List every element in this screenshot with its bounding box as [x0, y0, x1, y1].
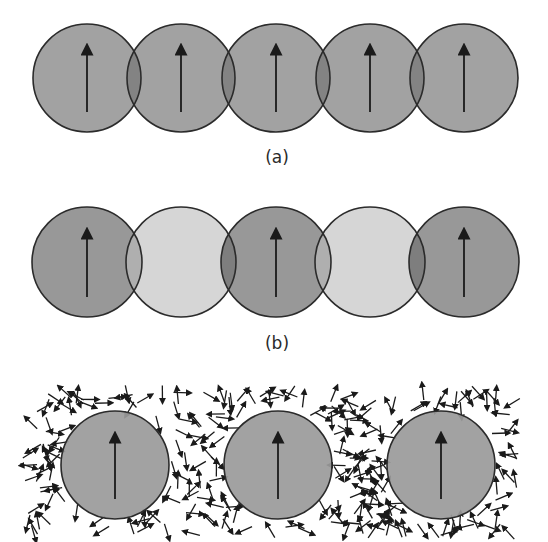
small-spin-arrow-icon — [55, 489, 65, 502]
small-spin-arrow-icon — [108, 397, 124, 399]
small-spin-arrow-icon — [46, 494, 53, 509]
small-spin-arrow-icon — [492, 433, 508, 434]
small-spin-arrow-icon — [504, 527, 515, 539]
small-spin-arrow-icon — [380, 425, 381, 441]
small-spin-arrow-icon — [28, 505, 42, 513]
small-spin-arrow-icon — [386, 520, 390, 536]
small-spin-arrow-icon — [363, 429, 378, 435]
small-spin-arrow-icon — [129, 519, 134, 534]
small-spin-arrow-icon — [354, 501, 364, 514]
panel-b-antiferromagnetic — [32, 207, 519, 317]
small-spin-arrow-icon — [222, 498, 231, 511]
small-spin-arrow-icon — [184, 491, 198, 498]
small-spin-arrow-icon — [411, 403, 425, 411]
small-spin-arrow-icon — [350, 420, 366, 421]
small-spin-arrow-icon — [192, 461, 206, 469]
small-spin-arrow-icon — [503, 471, 514, 483]
small-spin-arrow-icon — [186, 513, 202, 514]
small-spin-arrow-icon — [367, 469, 374, 483]
small-spin-arrow-icon — [247, 390, 255, 404]
small-spin-arrow-icon — [331, 387, 337, 402]
small-spin-arrow-icon — [137, 395, 151, 403]
small-spin-arrow-icon — [381, 478, 389, 492]
small-spin-arrow-icon — [203, 447, 214, 459]
small-spin-arrow-icon — [37, 467, 51, 474]
small-spin-arrow-icon — [315, 412, 329, 420]
small-spin-arrow-icon — [497, 465, 504, 479]
small-spin-arrow-icon — [344, 417, 360, 420]
small-spin-arrow-icon — [362, 400, 376, 408]
small-spin-arrow-icon — [40, 489, 56, 492]
small-spin-arrow-icon — [267, 524, 275, 538]
small-spin-arrow-icon — [344, 400, 359, 406]
small-spin-arrow-icon — [208, 485, 213, 500]
small-spin-arrow-icon — [223, 519, 232, 532]
small-spin-arrow-icon — [48, 394, 61, 403]
small-spin-arrow-icon — [188, 504, 196, 518]
small-spin-arrow-icon — [222, 494, 229, 508]
small-spin-arrow-icon — [364, 504, 372, 518]
small-spin-arrow-icon — [358, 479, 374, 480]
small-spin-arrow-icon — [208, 504, 224, 508]
small-spin-arrow-icon — [496, 479, 497, 495]
small-spin-arrow-icon — [191, 414, 201, 426]
small-spin-arrow-icon — [458, 524, 474, 528]
small-spin-arrow-icon — [176, 430, 190, 437]
small-spin-arrow-icon — [264, 397, 280, 400]
small-spin-arrow-icon — [229, 397, 231, 413]
small-spin-arrow-icon — [359, 518, 363, 533]
small-spin-arrow-icon — [331, 412, 332, 428]
small-spin-arrow-icon — [212, 437, 225, 447]
panel-c-superparamagnetic — [61, 411, 495, 519]
small-spin-arrow-icon — [36, 467, 42, 482]
small-spin-arrow-icon — [414, 403, 428, 411]
small-spin-arrow-icon — [494, 413, 510, 415]
small-spin-arrow-icon — [224, 390, 227, 406]
small-spin-arrow-icon — [473, 391, 486, 400]
small-spin-arrow-icon — [203, 392, 217, 400]
small-spin-arrow-icon — [202, 432, 214, 442]
spin-diagram: (a) (b) — [0, 0, 548, 542]
small-spin-arrow-icon — [233, 507, 237, 522]
panel-b-label: (b) — [265, 333, 289, 353]
small-spin-arrow-icon — [173, 392, 189, 393]
small-spin-arrow-icon — [156, 416, 160, 431]
small-spin-arrow-icon — [59, 387, 71, 398]
small-spin-arrow-icon — [386, 399, 394, 413]
small-spin-arrow-icon — [340, 439, 344, 455]
small-spin-arrow-icon — [39, 513, 50, 524]
small-spin-arrow-icon — [237, 404, 245, 418]
small-spin-arrow-icon — [372, 461, 388, 462]
small-spin-arrow-icon — [177, 388, 179, 404]
small-spin-arrow-icon — [354, 472, 369, 477]
small-spin-arrow-icon — [268, 392, 283, 396]
small-spin-arrow-icon — [43, 399, 49, 414]
small-spin-arrow-icon — [26, 515, 30, 531]
small-spin-arrow-icon — [40, 486, 56, 488]
small-spin-arrow-icon — [487, 392, 488, 408]
small-spin-arrow-icon — [380, 462, 381, 478]
small-spin-arrow-icon — [37, 514, 40, 530]
small-spin-arrow-icon — [422, 384, 424, 400]
small-spin-arrow-icon — [199, 472, 201, 488]
small-spin-arrow-icon — [455, 391, 457, 407]
small-spin-arrow-icon — [69, 399, 72, 415]
small-spin-arrow-icon — [302, 391, 304, 407]
small-spin-arrow-icon — [56, 397, 66, 410]
small-spin-arrow-icon — [165, 497, 180, 503]
small-spin-arrow-icon — [26, 418, 37, 429]
small-spin-arrow-icon — [388, 503, 404, 504]
small-spin-arrow-icon — [60, 403, 74, 411]
small-spin-arrow-icon — [205, 514, 217, 525]
small-spin-arrow-icon — [237, 527, 252, 533]
small-spin-arrow-icon — [477, 505, 489, 516]
small-spin-arrow-icon — [319, 499, 327, 513]
small-spin-arrow-icon — [185, 452, 187, 468]
small-spin-arrow-icon — [451, 520, 454, 536]
small-spin-arrow-icon — [125, 385, 128, 401]
small-spin-arrow-icon — [174, 402, 179, 417]
panel-a-label: (a) — [265, 147, 289, 167]
small-spin-arrow-icon — [219, 388, 225, 403]
small-spin-arrow-icon — [216, 417, 232, 419]
small-spin-arrow-icon — [176, 440, 181, 455]
